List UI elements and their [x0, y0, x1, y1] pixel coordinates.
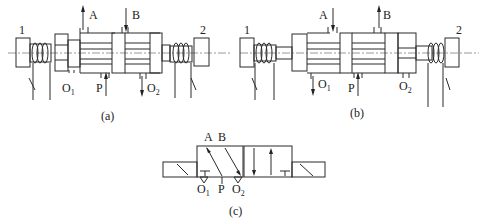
port-label-o2: O2 — [399, 79, 412, 95]
switch-icon — [446, 78, 450, 90]
port-label-p: P — [218, 182, 225, 196]
port-label-a: A — [204, 130, 213, 144]
solenoid-1-body — [240, 38, 254, 67]
caption-a: (a) — [101, 109, 114, 123]
end-cap-left — [292, 34, 307, 71]
solenoid-1-body — [16, 38, 30, 67]
switch-icon — [29, 78, 35, 90]
end-cap-left — [55, 34, 68, 71]
port-label-o1: O1 — [197, 182, 210, 198]
port-label-b: B — [132, 8, 140, 22]
port-label-o1: O1 — [62, 81, 75, 97]
port-label-o1: O1 — [318, 77, 331, 93]
port-label-o2: O2 — [232, 182, 245, 198]
port-label-p: P — [96, 81, 103, 95]
solenoid-label-2: 2 — [456, 23, 462, 37]
switch-icon — [191, 78, 196, 90]
caption-c: (c) — [229, 204, 242, 218]
solenoid-actuator-right — [292, 162, 325, 177]
caption-b: (b) — [350, 106, 364, 120]
solenoid-2-body — [194, 38, 209, 66]
port-label-a: A — [89, 8, 98, 22]
solenoid-label-1: 1 — [244, 23, 250, 37]
solenoid-2-body — [445, 38, 459, 67]
port-label-a: A — [319, 8, 328, 22]
port-label-o2: O2 — [147, 81, 160, 97]
panel-a: A B O1 P O2 1 2 (a) — [8, 5, 232, 123]
solenoid-actuator-left — [163, 162, 197, 177]
valve-diagram: A B O1 P O2 1 2 (a) — [0, 0, 481, 224]
solenoid-label-1: 1 — [19, 23, 25, 37]
panel-c: A B O1 P O2 (c) — [163, 130, 325, 218]
panel-b: A B O1 P O2 1 2 (b) — [240, 5, 479, 120]
solenoid-label-2: 2 — [200, 23, 206, 37]
port-label-b: B — [218, 130, 226, 144]
port-label-p: P — [348, 81, 355, 95]
port-label-b: B — [383, 8, 391, 22]
